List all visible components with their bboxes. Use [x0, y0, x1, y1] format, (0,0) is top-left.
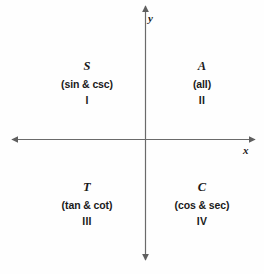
quadrant-numeral: IV — [142, 216, 262, 227]
quadrant-upper-left: S (sin & csc) I — [27, 60, 147, 106]
quadrant-functions: (tan & cot) — [27, 200, 147, 211]
quadrant-functions: (cos & sec) — [142, 200, 262, 211]
y-axis-label: y — [148, 13, 153, 24]
quadrant-letter: T — [27, 181, 147, 194]
quadrant-numeral: III — [27, 216, 147, 227]
quadrant-functions: (all) — [142, 79, 262, 90]
quadrant-numeral: I — [27, 95, 147, 106]
x-axis-label: x — [243, 145, 249, 156]
quadrant-upper-right: A (all) II — [142, 60, 262, 106]
quadrant-diagram: y x S (sin & csc) I A (all) II T (tan & … — [0, 0, 264, 274]
quadrant-lower-left: T (tan & cot) III — [27, 181, 147, 227]
quadrant-letter: C — [142, 181, 262, 194]
axes-graphic — [0, 0, 264, 274]
quadrant-functions: (sin & csc) — [27, 79, 147, 90]
quadrant-lower-right: C (cos & sec) IV — [142, 181, 262, 227]
quadrant-letter: S — [27, 60, 147, 73]
quadrant-letter: A — [142, 60, 262, 73]
quadrant-numeral: II — [142, 95, 262, 106]
